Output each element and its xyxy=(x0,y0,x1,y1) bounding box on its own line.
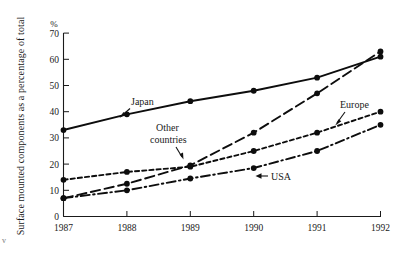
data-point xyxy=(187,98,193,104)
x-axis-ticks xyxy=(64,211,381,217)
data-point xyxy=(314,90,320,96)
annotation-usa-label: USA xyxy=(271,171,292,182)
series-japan xyxy=(61,54,384,133)
y-axis-ticks xyxy=(64,33,70,216)
annotation-japan: Japan xyxy=(120,96,154,118)
annotation-usa: USA xyxy=(256,171,292,182)
chart-page: Surface mounted components as a percenta… xyxy=(0,0,398,255)
data-point xyxy=(251,88,257,94)
y-axis-unit-label: % xyxy=(50,19,58,29)
data-point xyxy=(61,177,67,183)
data-point xyxy=(378,109,384,115)
annotation-europe-label: Europe xyxy=(340,99,369,110)
data-point xyxy=(314,75,320,81)
y-axis-tick-labels: 0 10 20 30 40 50 60 70 xyxy=(50,29,60,222)
data-point xyxy=(314,148,320,154)
x-label-1987: 1987 xyxy=(54,223,73,233)
data-point xyxy=(378,122,384,128)
annotation-other-line2: countries xyxy=(150,134,187,145)
x-label-1988: 1988 xyxy=(117,223,136,233)
y-label-50: 50 xyxy=(50,81,60,91)
y-label-0: 0 xyxy=(54,212,59,222)
series-line-other-countries xyxy=(64,51,381,198)
data-point xyxy=(251,165,257,171)
annotation-usa-arrowhead xyxy=(256,173,262,178)
y-label-70: 70 xyxy=(50,29,60,39)
data-point xyxy=(314,130,320,136)
data-point xyxy=(187,164,193,170)
x-axis-tick-labels: 1987 1988 1989 1990 1991 1992 xyxy=(54,223,390,233)
y-axis-title: Surface mounted components as a percenta… xyxy=(15,17,26,236)
y-label-30: 30 xyxy=(50,133,60,143)
page-edge-mark: v xyxy=(2,236,6,245)
x-label-1991: 1991 xyxy=(308,223,327,233)
data-point xyxy=(124,181,130,187)
annotation-other-line1: Other xyxy=(156,122,179,133)
series-usa xyxy=(61,122,384,201)
annotation-other-countries: Other countries xyxy=(150,122,187,160)
data-point xyxy=(61,127,67,133)
y-label-10: 10 xyxy=(50,186,60,196)
data-point xyxy=(378,54,384,60)
x-label-1990: 1990 xyxy=(244,223,263,233)
data-point xyxy=(251,130,257,136)
y-label-40: 40 xyxy=(50,107,60,117)
line-chart: Surface mounted components as a percenta… xyxy=(0,0,398,255)
data-point xyxy=(378,49,384,55)
series-europe xyxy=(61,109,384,183)
data-point xyxy=(251,148,257,154)
y-label-60: 60 xyxy=(50,55,60,65)
data-point xyxy=(124,187,130,193)
annotation-japan-label: Japan xyxy=(131,96,154,107)
series-layer xyxy=(61,49,384,202)
x-label-1989: 1989 xyxy=(181,223,200,233)
data-point xyxy=(124,169,130,175)
y-label-20: 20 xyxy=(50,160,60,170)
data-point xyxy=(187,176,193,182)
data-point xyxy=(61,195,67,201)
series-line-europe xyxy=(64,112,381,180)
series-line-japan xyxy=(64,57,381,130)
x-label-1992: 1992 xyxy=(371,223,390,233)
